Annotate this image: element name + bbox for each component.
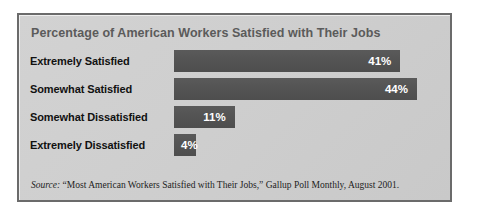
bar-value-label: 4% xyxy=(174,139,198,151)
bar-somewhat-dissatisfied: 11% xyxy=(174,106,235,128)
bar-row: Somewhat Dissatisfied 11% xyxy=(30,103,439,131)
source-note: Source: “Most American Workers Satisfied… xyxy=(31,179,438,191)
bar-value-label: 41% xyxy=(368,55,400,67)
bar-track: 41% xyxy=(174,47,439,75)
bar-chart-plot-area: Extremely Satisfied 41% Somewhat Satisfi… xyxy=(30,47,439,159)
bar-category-label: Somewhat Satisfied xyxy=(30,83,174,96)
bar-track: 11% xyxy=(174,103,439,131)
chart-panel: Percentage of American Workers Satisfied… xyxy=(19,15,450,200)
chart-title: Percentage of American Workers Satisfied… xyxy=(31,25,439,41)
chart-figure-frame: Percentage of American Workers Satisfied… xyxy=(17,13,452,202)
source-text: “Most American Workers Satisfied with Th… xyxy=(60,180,399,190)
bar-track: 4% xyxy=(174,131,439,159)
bar-value-label: 11% xyxy=(203,111,234,123)
bar-category-label: Extremely Dissatisfied xyxy=(30,139,174,152)
bar-row: Extremely Dissatisfied 4% xyxy=(30,131,439,159)
bar-somewhat-satisfied: 44% xyxy=(174,78,417,100)
bar-extremely-satisfied: 41% xyxy=(174,50,400,72)
bar-row: Somewhat Satisfied 44% xyxy=(30,75,439,103)
bar-category-label: Extremely Satisfied xyxy=(30,55,174,68)
bar-track: 44% xyxy=(174,75,439,103)
bar-value-label: 44% xyxy=(385,83,417,95)
bar-row: Extremely Satisfied 41% xyxy=(30,47,439,75)
source-label: Source: xyxy=(31,180,60,190)
bar-extremely-dissatisfied: 4% xyxy=(174,134,196,156)
bar-category-label: Somewhat Dissatisfied xyxy=(30,111,174,124)
